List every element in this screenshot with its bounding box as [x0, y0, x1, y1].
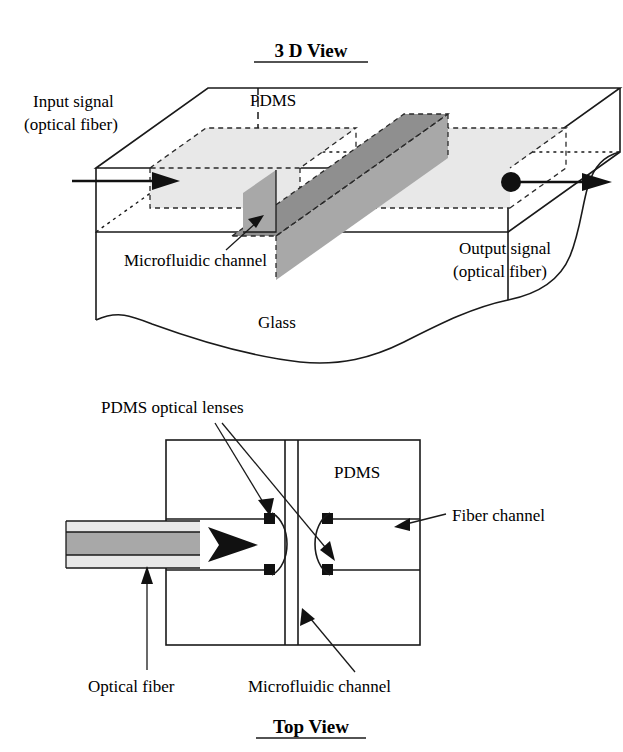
label-input-signal-line1: Input signal — [33, 92, 114, 111]
glass-bottom-torn-edge — [96, 300, 508, 363]
optical-fiber-bar — [66, 521, 200, 568]
optical-fiber-cladding-bottom — [66, 555, 200, 568]
label-glass: Glass — [258, 313, 296, 332]
optical-fiber-cladding-top — [66, 521, 200, 532]
fiber-channel-leader-arrowhead — [394, 518, 410, 531]
fiber-channel-left-front — [150, 168, 300, 208]
view-top-body: PDMS optical lenses PDMS Fiber channel O… — [66, 398, 545, 738]
output-arrow-head — [582, 173, 612, 191]
schematic-figure: 3 D View — [0, 0, 623, 752]
optical-fiber-core — [66, 532, 200, 555]
beam-arrow-left — [208, 527, 258, 562]
label-input-signal-line2: (optical fiber) — [24, 115, 118, 134]
pdms-optical-lens-left — [264, 513, 287, 575]
fiber-channel-left-top — [150, 128, 356, 168]
label-output-signal-line2: (optical fiber) — [453, 262, 547, 281]
label-microfluidic-channel-top: Microfluidic channel — [248, 677, 391, 696]
figure-root: 3 D View — [0, 0, 623, 752]
label-microfluidic-channel-3d: Microfluidic channel — [124, 251, 267, 270]
label-output-signal-line1: Output signal — [459, 239, 551, 258]
optical-fiber-leader-arrowhead — [141, 566, 153, 584]
lens-leader-line-left — [215, 423, 266, 507]
label-pdms-optical-lenses: PDMS optical lenses — [101, 398, 244, 417]
view-top-title-group: Top View — [256, 716, 366, 738]
label-fiber-channel: Fiber channel — [452, 506, 545, 525]
microfluidic-top-leader-arrowhead — [300, 608, 315, 626]
label-optical-fiber: Optical fiber — [88, 677, 175, 696]
view-3d-body: PDMS Input signal (optical fiber) Output… — [24, 88, 620, 363]
view-3d-title: 3 D View — [275, 40, 348, 61]
view-3d-title-group: 3 D View — [254, 40, 368, 62]
top-view-chip-outline — [166, 440, 420, 645]
label-pdms-top-view: PDMS — [334, 463, 380, 482]
label-pdms-3d: PDMS — [250, 91, 296, 110]
view-top-title: Top View — [273, 716, 349, 737]
lens-leader-line-right — [222, 423, 330, 553]
